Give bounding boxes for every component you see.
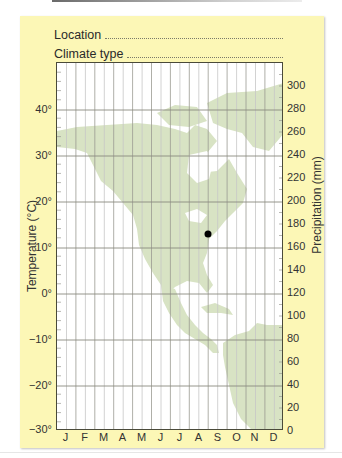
month-label-may: M: [132, 431, 151, 443]
precip-tick-0: 0: [287, 424, 317, 436]
location-label: Location: [54, 28, 101, 42]
map-and-grid: [57, 63, 283, 430]
month-label-nov: N: [245, 431, 264, 443]
top-divider: [52, 0, 302, 2]
month-label-dec: D: [264, 431, 283, 443]
climate-type-input-line[interactable]: [127, 57, 283, 58]
month-label-feb: F: [75, 431, 94, 443]
month-label-jul: J: [170, 431, 189, 443]
climate-graph-plot: [56, 62, 283, 430]
precip-tick-280: 280: [287, 102, 317, 114]
month-label-aug: A: [189, 431, 208, 443]
precip-tick-80: 80: [287, 332, 317, 344]
location-input-line[interactable]: [105, 38, 283, 39]
precip-tick-120: 120: [287, 286, 317, 298]
precip-tick-140: 140: [287, 263, 317, 275]
precip-tick-300: 300: [287, 79, 317, 91]
month-label-oct: O: [227, 431, 246, 443]
temp-tick-30: 30°: [12, 149, 52, 161]
bottom-divider: [0, 452, 342, 453]
month-label-apr: A: [113, 431, 132, 443]
temperature-axis-title: Temperature (°C): [25, 200, 39, 292]
month-label-sep: S: [208, 431, 227, 443]
temp-tick-minus-20: −20°: [12, 379, 52, 391]
temp-tick-40: 40°: [12, 103, 52, 115]
month-label-mar: M: [94, 431, 113, 443]
precip-tick-260: 260: [287, 125, 317, 137]
left-axis-ticks: [57, 72, 61, 422]
precip-tick-20: 20: [287, 401, 317, 413]
precipitation-axis-title: Precipitation (mm): [310, 156, 324, 253]
precip-tick-60: 60: [287, 355, 317, 367]
location-marker-dot[interactable]: [205, 231, 212, 238]
location-field[interactable]: Location: [54, 26, 283, 42]
climate-type-label: Climate type: [54, 47, 123, 61]
month-label-jan: J: [56, 431, 75, 443]
precip-tick-100: 100: [287, 309, 317, 321]
temp-tick-minus-30: −30°: [12, 423, 52, 435]
temp-tick-minus-10: −10°: [12, 333, 52, 345]
month-label-jun: J: [151, 431, 170, 443]
precip-tick-40: 40: [287, 378, 317, 390]
climate-type-field[interactable]: Climate type: [54, 45, 283, 61]
